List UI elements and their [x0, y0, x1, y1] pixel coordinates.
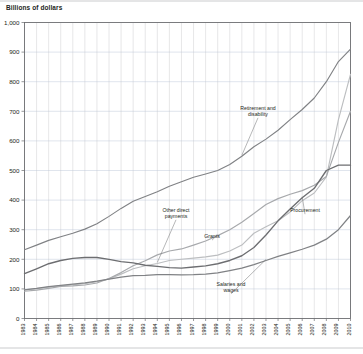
annotation-salaries-and-wages: Salaries andwages [217, 259, 266, 293]
annotation-label: disability [248, 111, 268, 117]
y-axis-label: 900 [9, 48, 20, 55]
y-axis-label: 500 [9, 167, 20, 174]
annotation-leader-line [231, 259, 266, 293]
x-axis-label: 1996 [176, 324, 182, 336]
x-axis-label: 1983 [20, 324, 26, 336]
plot-area: 01002003004005006007008009001,0001983198… [0, 0, 363, 354]
series-line-procurement [25, 165, 351, 273]
x-axis-label: 1993 [140, 324, 146, 336]
y-axis-label: 600 [9, 137, 20, 144]
annotation-leader-line [157, 220, 176, 263]
x-axis-label: 1999 [213, 324, 219, 336]
x-axis-label: 1985 [44, 324, 50, 336]
y-axis-label: 200 [9, 256, 20, 263]
series-line-retirement-and-disability [25, 49, 351, 250]
x-axis-label: 1988 [80, 324, 86, 336]
y-axis-label: 400 [9, 196, 20, 203]
x-axis-label: 2002 [249, 324, 255, 336]
x-axis-label: 1998 [201, 324, 207, 336]
x-axis-label: 2007 [309, 324, 315, 336]
x-axis-label: 1995 [164, 324, 170, 336]
annotation-label: wages [224, 287, 239, 293]
x-axis-label: 2010 [346, 324, 352, 336]
y-axis-label: 700 [9, 108, 20, 115]
x-axis-label: 1997 [189, 324, 195, 336]
x-axis-label: 2006 [297, 324, 303, 336]
x-axis-label: 2005 [285, 324, 291, 336]
x-axis-label: 1992 [128, 324, 134, 336]
y-axis-label: 1,000 [4, 19, 20, 26]
y-axis-label: 0 [16, 315, 20, 322]
line-chart-svg: 01002003004005006007008009001,0001983198… [0, 0, 363, 354]
x-axis-label: 1989 [92, 324, 98, 336]
annotation-retirement-and-disability: Retirement anddisability [240, 105, 276, 155]
x-axis-label: 1990 [104, 324, 110, 336]
x-axis-label: 1994 [152, 324, 158, 336]
annotation-other-direct-payments: Other directpayments [157, 207, 190, 262]
x-axis-label: 1984 [32, 324, 38, 336]
chart-figure: Billions of dollars 01002003004005006007… [0, 0, 363, 354]
x-axis-label: 2001 [237, 324, 243, 336]
x-axis-label: 1986 [56, 324, 62, 336]
x-axis-label: 2009 [333, 324, 339, 336]
x-axis-label: 2003 [261, 324, 267, 336]
annotation-label: Grants [204, 233, 220, 239]
y-axis-label: 800 [9, 78, 20, 85]
x-axis-label: 1987 [68, 324, 74, 336]
x-axis-label: 2008 [321, 324, 327, 336]
x-axis-label: 2000 [225, 324, 231, 336]
x-axis-label: 1991 [116, 324, 122, 336]
annotation-label: Procurement [290, 207, 320, 213]
series-line-other-direct-payments [25, 74, 351, 289]
x-axis-label: 2004 [273, 324, 279, 336]
series-line-salaries-and-wages [25, 215, 351, 289]
y-axis-label: 100 [9, 285, 20, 292]
y-axis-label: 300 [9, 226, 20, 233]
annotation-label: payments [165, 213, 188, 219]
